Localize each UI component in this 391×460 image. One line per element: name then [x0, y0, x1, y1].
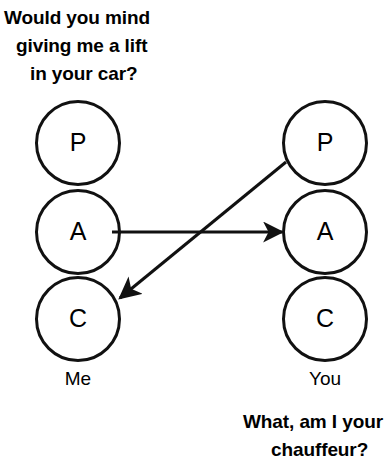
caption-top: Would you mind giving me a lift in your …: [0, 4, 200, 88]
ego-state-letter: A: [317, 219, 334, 244]
ego-state-you-adult: A: [282, 189, 368, 275]
caption-bottom-line-1: What, am I your: [243, 408, 391, 436]
ego-state-me-child: C: [35, 276, 121, 362]
ego-state-me-parent: P: [35, 100, 121, 186]
ego-state-letter: C: [316, 306, 334, 331]
ego-state-letter: P: [317, 130, 334, 155]
caption-bottom-line-2: chauffeur?: [243, 436, 391, 460]
ego-state-me-adult: A: [35, 189, 121, 275]
caption-bottom: What, am I your chauffeur?: [243, 408, 391, 460]
ego-state-letter: P: [70, 130, 87, 155]
ego-state-you-parent: P: [282, 100, 368, 186]
ego-state-you-child: C: [282, 276, 368, 362]
person-label-me: Me: [18, 368, 138, 390]
caption-top-line-2: giving me a lift: [0, 32, 200, 60]
caption-top-line-1: Would you mind: [0, 4, 200, 32]
caption-top-line-3: in your car?: [0, 60, 200, 88]
person-label-you: You: [265, 368, 385, 390]
ego-state-letter: A: [70, 219, 87, 244]
response-arrow: [120, 162, 286, 298]
ego-state-letter: C: [69, 306, 87, 331]
